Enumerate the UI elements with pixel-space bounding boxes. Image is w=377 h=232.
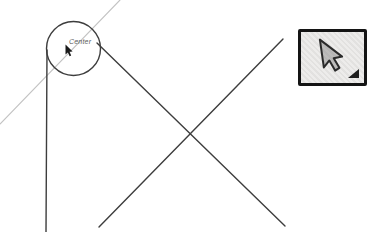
- flyout-corner-triangle-icon: [348, 69, 359, 78]
- vertical-edge[interactable]: [46, 50, 47, 232]
- select-cursor-icon: [315, 37, 345, 77]
- select-tool-button[interactable]: [298, 29, 367, 86]
- diagonal-edge-down-left[interactable]: [99, 39, 283, 227]
- cursor-arrow-icon: [64, 44, 74, 57]
- drawing-app-screenshot: Center: [0, 0, 377, 232]
- diagonal-edge-down-right[interactable]: [97, 43, 285, 226]
- inference-line-light[interactable]: [0, 0, 120, 124]
